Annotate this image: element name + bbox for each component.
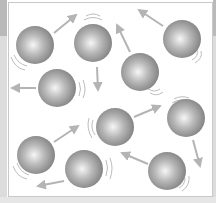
velocity-arrow-icon <box>54 126 78 142</box>
motion-line-icon <box>92 120 95 135</box>
velocity-arrow-icon <box>117 25 130 52</box>
velocity-arrow-icon <box>122 153 148 164</box>
gas-molecules-diagram <box>0 0 216 203</box>
molecule-sphere <box>65 150 103 188</box>
motion-line-icon <box>106 160 108 176</box>
molecule-sphere <box>167 99 205 137</box>
motion-line-icon <box>86 14 100 16</box>
molecule-sphere <box>148 152 186 190</box>
motion-line-icon <box>83 80 85 98</box>
motion-line-icon <box>110 158 112 179</box>
molecule-sphere <box>96 108 134 146</box>
motion-line-icon <box>79 82 81 96</box>
molecule-sphere <box>163 20 201 58</box>
molecule-sphere <box>17 136 55 174</box>
velocity-arrow-icon <box>38 181 64 186</box>
velocity-arrow-icon <box>134 106 160 117</box>
motion-line-icon <box>150 92 163 95</box>
molecule-sphere <box>38 69 76 107</box>
molecules <box>16 20 205 190</box>
velocity-arrow-icon <box>97 67 98 90</box>
molecule-sphere <box>121 53 159 91</box>
motion-line-icon <box>148 89 160 91</box>
molecule-sphere <box>16 26 54 64</box>
velocity-arrow-icon <box>193 140 200 166</box>
molecule-sphere <box>74 24 112 62</box>
motion-line-icon <box>174 97 189 99</box>
motion-line-icon <box>88 118 92 138</box>
velocity-arrow-icon <box>54 15 76 33</box>
velocity-arrow-icon <box>139 10 163 26</box>
motion-line-icon <box>84 18 102 21</box>
